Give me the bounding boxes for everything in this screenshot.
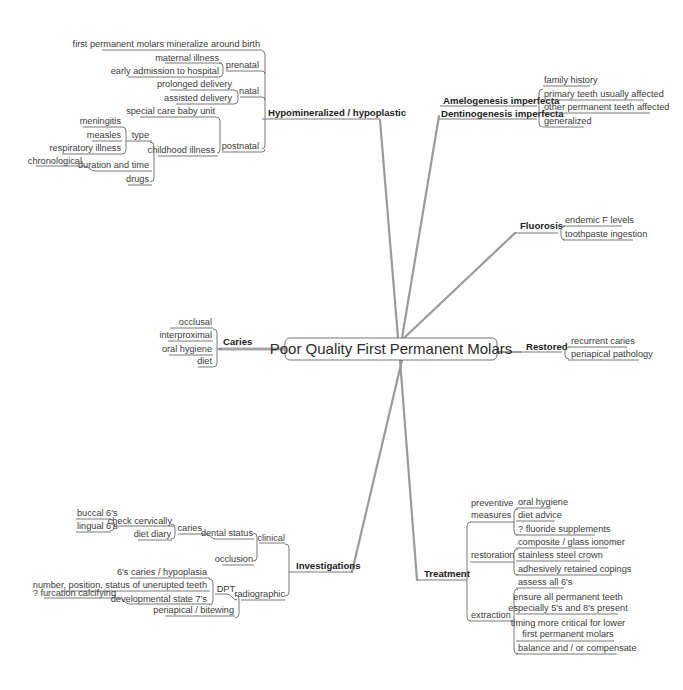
- check-cervically-item-buccal[interactable]: buccal 6's: [77, 508, 118, 518]
- caries-label[interactable]: Caries: [223, 336, 252, 347]
- preventive-item-oral-hygiene[interactable]: oral hygiene: [518, 497, 568, 507]
- preventive-item-diet-advice[interactable]: diet advice: [518, 510, 562, 520]
- prenatal-label[interactable]: prenatal: [226, 60, 259, 70]
- caries-item-diet[interactable]: diet: [197, 356, 212, 366]
- dpt-label[interactable]: DPT: [217, 584, 236, 594]
- extraction-item-balance[interactable]: balance and / or compensate: [518, 643, 637, 653]
- branch-caries: Caries occlusal interproximal oral hygie…: [159, 317, 252, 367]
- spoke-investigations: [352, 360, 402, 572]
- childhood-illness-label[interactable]: childhood illness: [148, 145, 216, 155]
- dpt-item-caries-hypoplasia[interactable]: 6's caries / hypoplasia: [117, 567, 208, 577]
- periapical-item[interactable]: periapical / bitewing: [153, 605, 234, 615]
- amelogenesis-label[interactable]: Amelogenesis imperfecta: [443, 95, 560, 106]
- branch-treatment: Treatment preventive measures oral hygie…: [417, 497, 637, 654]
- branch-hypomineralized: Hypomineralized / hypoplastic first perm…: [28, 39, 407, 185]
- investigations-label[interactable]: Investigations: [296, 560, 361, 571]
- natal-item-assisted-delivery[interactable]: assisted delivery: [164, 93, 232, 103]
- duration-label[interactable]: duration and time: [78, 160, 149, 170]
- type-label[interactable]: type: [132, 130, 149, 140]
- caries-item-interproximal[interactable]: interproximal: [159, 330, 212, 340]
- radiographic-label[interactable]: radiographic: [234, 589, 285, 599]
- postnatal-label[interactable]: postnatal: [222, 141, 259, 151]
- investigations-caries-label[interactable]: caries: [177, 523, 202, 533]
- clinical-label[interactable]: clinical: [257, 533, 285, 543]
- drugs-item[interactable]: drugs: [126, 174, 149, 184]
- amelo-item-other-permanent[interactable]: other permanent teeth affected: [544, 102, 669, 112]
- extraction-item-ensure-line2[interactable]: especially 5's and 8's present: [508, 603, 628, 613]
- restoration-item-copings[interactable]: adhesively retained copings: [518, 564, 632, 574]
- type-item-measles[interactable]: measles: [87, 130, 122, 140]
- extraction-label[interactable]: extraction: [471, 610, 511, 620]
- prenatal-item-maternal-illness[interactable]: maternal illness: [155, 53, 219, 63]
- mind-map: Poor Quality First Permanent Molars Hypo…: [0, 0, 683, 690]
- natal-label[interactable]: natal: [239, 86, 259, 96]
- caries-item-occlusal[interactable]: occlusal: [179, 317, 212, 327]
- restored-item-recurrent-caries[interactable]: recurrent caries: [571, 336, 635, 346]
- amelo-item-family-history[interactable]: family history: [544, 75, 598, 85]
- developmental-item-furcation[interactable]: ? furcation calcifying: [33, 588, 116, 598]
- extraction-item-timing-line1[interactable]: timing more critical for lower: [511, 618, 625, 628]
- dental-status-label[interactable]: dental status: [201, 528, 254, 538]
- extraction-item-timing-line2[interactable]: first permanent molars: [522, 629, 614, 639]
- branch-restored: Restored recurrent caries periapical pat…: [520, 336, 653, 360]
- preventive-label-line1[interactable]: preventive: [471, 498, 513, 508]
- extraction-item-assess[interactable]: assess all 6's: [518, 577, 573, 587]
- duration-item-chronological[interactable]: chronological: [28, 156, 82, 166]
- restoration-item-composite[interactable]: composite / glass ionomer: [518, 537, 625, 547]
- extraction-item-ensure-line1[interactable]: ensure all permanent teeth: [513, 592, 622, 602]
- fluorosis-label[interactable]: Fluorosis: [520, 220, 563, 231]
- branch-investigations: Investigations clinical dental status ca…: [33, 508, 361, 618]
- amelo-item-primary-teeth[interactable]: primary teeth usually affected: [544, 89, 664, 99]
- postnatal-item-special-care[interactable]: special care baby unit: [126, 106, 215, 116]
- first-molars-item[interactable]: first permanent molars mineralize around…: [73, 39, 260, 49]
- diet-diary-item[interactable]: diet diary: [134, 529, 172, 539]
- caries-item-oral-hygiene[interactable]: oral hygiene: [162, 344, 212, 354]
- spoke-treatment: [400, 360, 417, 580]
- occlusion-item[interactable]: occlusion: [215, 554, 253, 564]
- restored-item-periapical[interactable]: periapical pathology: [571, 349, 653, 359]
- natal-item-prolonged-delivery[interactable]: prolonged delivery: [157, 79, 232, 89]
- restoration-label[interactable]: restoration: [471, 550, 514, 560]
- center-node-label: Poor Quality First Permanent Molars: [270, 340, 513, 357]
- branch-amelogenesis: Amelogenesis imperfecta Dentinogenesis i…: [439, 75, 669, 127]
- spoke-fluorosis: [404, 233, 515, 338]
- type-item-respiratory-illness[interactable]: respiratory illness: [50, 143, 122, 153]
- prenatal-item-early-admission[interactable]: early admission to hospital: [111, 66, 219, 76]
- spoke-amelogenesis: [402, 116, 439, 338]
- center-node[interactable]: Poor Quality First Permanent Molars: [270, 338, 513, 360]
- type-item-meningitis[interactable]: meningitis: [80, 116, 122, 126]
- spoke-hypomineralized: [380, 120, 398, 338]
- treatment-label[interactable]: Treatment: [424, 568, 471, 579]
- hypomineralized-label[interactable]: Hypomineralized / hypoplastic: [268, 107, 407, 118]
- fluorosis-item-toothpaste[interactable]: toothpaste ingestion: [565, 229, 647, 239]
- check-cervically-item-lingual[interactable]: lingual 6's: [77, 521, 118, 531]
- amelo-item-generalized[interactable]: generalized: [544, 116, 592, 126]
- fluorosis-item-endemic[interactable]: endemic F levels: [565, 215, 634, 225]
- branch-fluorosis: Fluorosis endemic F levels toothpaste in…: [515, 215, 647, 240]
- preventive-item-fluoride[interactable]: ? fluoride supplements: [518, 524, 611, 534]
- restoration-item-steel-crown[interactable]: stainless steel crown: [518, 550, 603, 560]
- restored-label[interactable]: Restored: [526, 341, 568, 352]
- preventive-label-line2[interactable]: measures: [471, 510, 512, 520]
